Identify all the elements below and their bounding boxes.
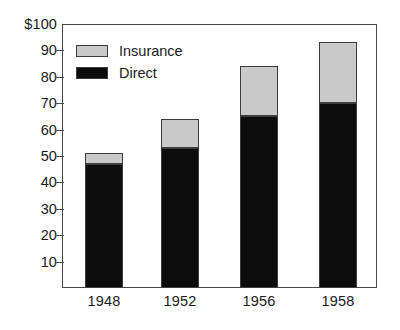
x-axis-label: 1952	[141, 294, 219, 309]
y-axis-tick	[55, 156, 64, 157]
legend: Insurance Direct	[76, 40, 183, 84]
x-axis-label: 1948	[65, 294, 143, 309]
bar-segment-direct	[240, 116, 278, 288]
bar-segment-insurance	[161, 119, 199, 148]
bar-segment-direct	[85, 164, 123, 288]
bar-segment-insurance	[319, 42, 357, 103]
bar-group	[240, 66, 278, 288]
x-axis-label: 1956	[220, 294, 298, 309]
stacked-bar-chart: 102030405060708090$100 1948195219561958 …	[0, 0, 400, 330]
legend-item-direct: Direct	[76, 62, 183, 84]
legend-label-insurance: Insurance	[119, 44, 183, 59]
legend-swatch-insurance	[76, 45, 108, 57]
bar-group	[319, 42, 357, 288]
bar-group	[85, 153, 123, 288]
bar-segment-direct	[319, 103, 357, 288]
legend-label-direct: Direct	[119, 66, 157, 81]
y-axis-tick	[55, 77, 64, 78]
bar-segment-insurance	[240, 66, 278, 116]
y-axis-tick	[55, 130, 64, 131]
y-axis-tick	[55, 103, 64, 104]
y-axis-tick	[55, 50, 64, 51]
bar-segment-direct	[161, 148, 199, 288]
legend-swatch-direct	[76, 67, 108, 79]
y-axis-tick	[55, 182, 64, 183]
bar-group	[161, 119, 199, 288]
y-axis-tick	[55, 209, 64, 210]
y-axis-tick	[55, 262, 64, 263]
y-axis-tick	[55, 235, 64, 236]
legend-item-insurance: Insurance	[76, 40, 183, 62]
bar-segment-insurance	[85, 153, 123, 164]
x-axis-label: 1958	[299, 294, 377, 309]
